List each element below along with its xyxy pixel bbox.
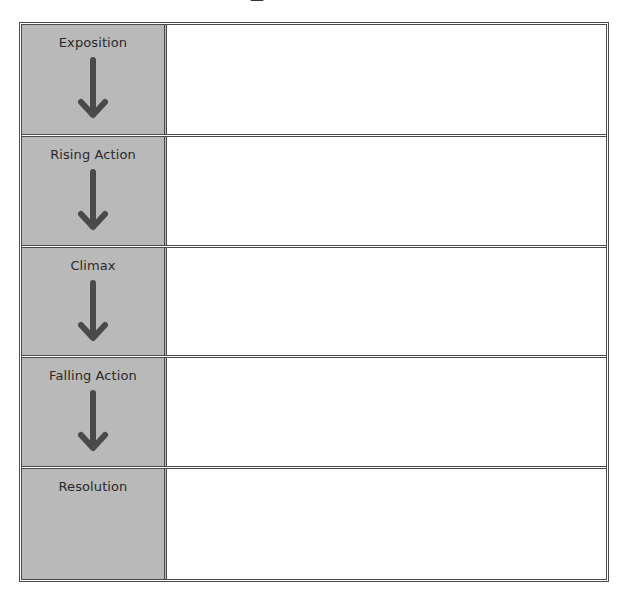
stage-notes-cell[interactable] [167,248,606,355]
stage-label: Climax [70,258,115,273]
down-arrow-icon [76,389,110,455]
stage-label: Falling Action [49,368,137,383]
plot-diagram-table: Exposition Rising Action Climax [19,22,609,582]
stage-row-exposition: Exposition [22,25,606,137]
stage-row-falling-action: Falling Action [22,358,606,469]
stage-notes-cell[interactable] [167,25,606,134]
stage-notes-cell[interactable] [167,358,606,466]
stage-label: Rising Action [50,147,136,162]
stage-label: Resolution [59,479,128,494]
stage-label-cell: Rising Action [22,137,167,245]
down-arrow-icon [76,168,110,234]
stage-label-cell: Climax [22,248,167,355]
stage-label-cell: Exposition [22,25,167,134]
cutoff-heading-fragment [250,0,264,1]
stage-row-rising-action: Rising Action [22,137,606,248]
stage-label-cell: Falling Action [22,358,167,466]
stage-row-resolution: Resolution [22,469,606,579]
stage-row-climax: Climax [22,248,606,358]
stage-notes-cell[interactable] [167,469,606,579]
down-arrow-icon [76,56,110,122]
stage-label-cell: Resolution [22,469,167,579]
down-arrow-icon [76,279,110,345]
stage-notes-cell[interactable] [167,137,606,245]
stage-label: Exposition [59,35,127,50]
